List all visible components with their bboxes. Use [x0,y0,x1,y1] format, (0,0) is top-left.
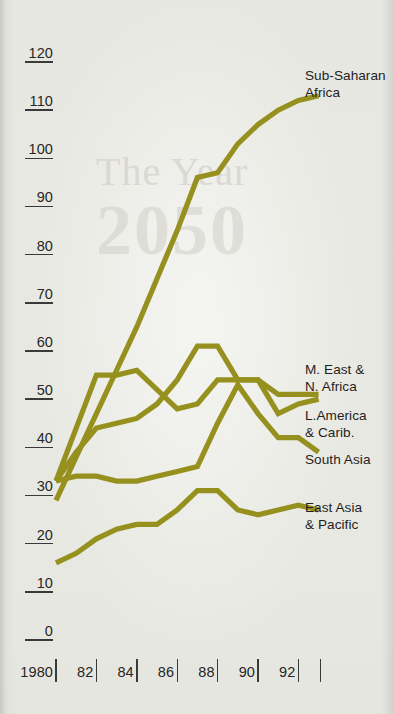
series-label-m-east-n-africa: M. East & N. Africa [305,362,364,395]
series-label-l-america-carib: L.America & Carib. [305,408,367,441]
y-axis-tick-label: 70 [20,286,53,302]
x-axis-tick-label: 92 [242,664,295,680]
series-lines [56,96,319,563]
chart-page: The Year 2050 01020304050607080901001101… [0,0,394,714]
y-axis-tick-label: 90 [20,189,53,205]
line-chart-canvas [0,0,394,714]
series-label-south-asia: South Asia [305,452,371,469]
y-axis-tick-label: 60 [20,334,53,350]
series-label-sub-saharan-africa: Sub-Saharan Africa [305,68,386,101]
y-axis-tick-label: 110 [20,93,53,109]
y-axis-tick-label: 120 [20,45,53,61]
y-axis-tick-label: 30 [20,478,53,494]
y-axis-tick-label: 40 [20,430,53,446]
y-axis-tick-label: 10 [20,575,53,591]
series-line [56,491,319,563]
series-label-east-asia-pacific: East Asia & Pacific [305,500,362,533]
y-axis-tick-label: 20 [20,527,53,543]
y-axis-tick-label: 0 [20,623,53,639]
y-axis-tick-label: 50 [20,382,53,398]
y-axis-tick-label: 100 [20,141,53,157]
y-axis-tick-label: 80 [20,238,53,254]
